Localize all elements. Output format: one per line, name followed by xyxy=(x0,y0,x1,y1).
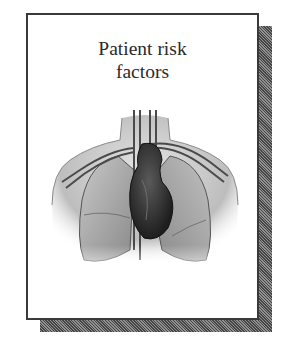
title-line-2: factors xyxy=(28,60,257,83)
title-line-1: Patient risk xyxy=(28,37,257,60)
chest-anatomy-illustration xyxy=(50,110,240,280)
card-title: Patient risk factors xyxy=(28,37,257,83)
risk-factor-card: Patient risk factors xyxy=(26,13,259,320)
